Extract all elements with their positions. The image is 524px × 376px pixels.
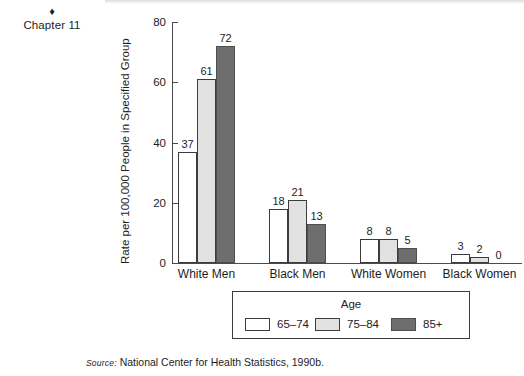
- plot-area: 376172182113885320: [172, 22, 520, 263]
- chart-legend: Age 65–7475–8485+: [232, 291, 470, 339]
- source-text: National Center for Health Statistics, 1…: [120, 356, 324, 368]
- bar: [360, 239, 379, 263]
- y-axis-tick-label-text: 20: [140, 197, 166, 209]
- bar-value-label: 21: [287, 186, 309, 198]
- y-axis-title: Rate per 100,000 People in Specified Gro…: [118, 22, 132, 264]
- bar-value-label: 61: [196, 65, 218, 77]
- bar-value-label: 37: [177, 138, 199, 150]
- bar-chart-figure: Rate per 100,000 People in Specified Gro…: [0, 0, 524, 376]
- x-axis-line: [172, 263, 522, 264]
- bar: [398, 248, 417, 263]
- y-axis-tick-label: 60: [140, 76, 166, 88]
- bar: [307, 224, 326, 263]
- x-axis-group-label: Black Women: [420, 267, 524, 281]
- legend-item: 85+: [391, 316, 443, 332]
- source-note: Source: National Center for Health Stati…: [86, 355, 324, 370]
- legend-item: 65–74: [245, 316, 309, 332]
- y-axis-tick-label: 20: [140, 197, 166, 209]
- bar: [470, 257, 489, 263]
- legend-label: 85+: [423, 317, 443, 331]
- legend-title: Age: [233, 297, 469, 311]
- bar-value-label: 13: [306, 210, 328, 222]
- bar-value-label: 72: [215, 32, 237, 44]
- y-axis-tick: [173, 263, 178, 264]
- legend-label: 75–84: [347, 317, 379, 331]
- y-axis-tick-label-text: 40: [140, 137, 166, 149]
- bar-value-label: 5: [397, 234, 419, 246]
- y-axis-tick-label-text: 60: [140, 76, 166, 88]
- bar: [379, 239, 398, 263]
- y-axis-tick-label: 80: [140, 16, 166, 28]
- bar: [269, 209, 288, 263]
- bar: [178, 152, 197, 263]
- source-keyword: Source:: [86, 358, 117, 368]
- bar: [216, 46, 235, 263]
- legend-swatch: [245, 318, 270, 331]
- y-axis-tick-label-text: 80: [140, 16, 166, 28]
- bar: [288, 200, 307, 263]
- legend-swatch: [315, 318, 340, 331]
- bar-value-label: 0: [488, 249, 510, 261]
- legend-swatch: [391, 318, 416, 331]
- legend-item: 75–84: [315, 316, 379, 332]
- y-axis-tick-label: 40: [140, 137, 166, 149]
- legend-label: 65–74: [277, 317, 309, 331]
- bar: [197, 79, 216, 263]
- bar: [451, 254, 470, 263]
